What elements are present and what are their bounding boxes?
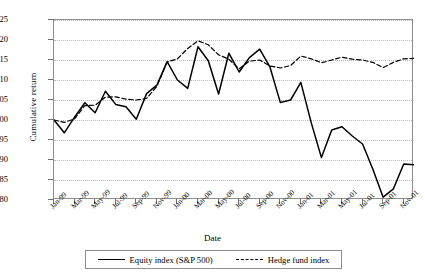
y-tick-label-110: 110 [0, 74, 8, 84]
chart-legend: Equity index (S&P 500) Hedge fund index [85, 250, 342, 269]
legend-swatch-solid-line [98, 259, 125, 260]
y-tick-label-100: 100 [0, 114, 8, 124]
y-tick-label-115: 115 [0, 54, 8, 64]
legend-label-equity-index: Equity index (S&P 500) [130, 255, 213, 265]
y-tick-label-125: 125 [0, 14, 8, 24]
legend-swatch-dashed-line [236, 259, 263, 260]
y-tick-label-105: 105 [0, 94, 8, 104]
legend-label-hedge-fund-index: Hedge fund index [268, 255, 330, 265]
y-tick-label-85: 85 [0, 174, 8, 184]
legend-item-equity-index: Equity index (S&P 500) [98, 255, 213, 265]
chart-figure: Cumulative return 8085909510010511011512… [0, 0, 425, 279]
x-axis-title: Date [0, 233, 425, 243]
x-tick-label-Jan-99: Jan-99 [48, 190, 68, 210]
plot-area [53, 19, 413, 199]
y-tick-label-90: 90 [0, 154, 8, 164]
series-line-hedge-fund-index [54, 41, 414, 123]
y-tick-label-80: 80 [0, 194, 8, 204]
y-tick-label-120: 120 [0, 34, 8, 44]
series-line-equity-index-s-p-500 [54, 47, 414, 197]
y-axis-title: Cumulative return [28, 27, 38, 187]
legend-item-hedge-fund-index: Hedge fund index [236, 255, 330, 265]
data-series-layer [54, 20, 412, 198]
series-lines [54, 20, 414, 200]
y-tick-label-95: 95 [0, 134, 8, 144]
